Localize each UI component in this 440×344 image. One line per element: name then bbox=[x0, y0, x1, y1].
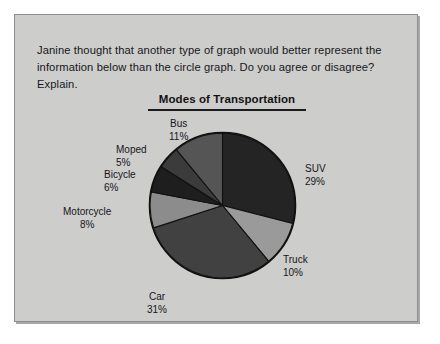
pie-label-bicycle: Bicycle 6% bbox=[104, 169, 136, 194]
pie-label-moped-value: 5% bbox=[116, 157, 147, 170]
pie-svg bbox=[148, 131, 297, 280]
pie-label-truck: Truck 10% bbox=[283, 254, 308, 279]
pie-label-moped: Moped 5% bbox=[116, 144, 147, 169]
pie-label-truck-value: 10% bbox=[283, 267, 308, 280]
pie-label-car: Car 31% bbox=[147, 291, 167, 316]
question-prompt: Janine thought that another type of grap… bbox=[37, 42, 389, 93]
pie-label-truck-name: Truck bbox=[283, 254, 308, 267]
chart-title-underline bbox=[148, 109, 306, 111]
pie-label-motorcycle-value: 8% bbox=[63, 219, 111, 232]
pie-label-suv: SUV 29% bbox=[305, 163, 326, 188]
pie-slices bbox=[150, 133, 295, 278]
pie-graphic bbox=[148, 131, 297, 280]
pie-label-motorcycle: Motorcycle 8% bbox=[63, 206, 111, 231]
pie-label-bus: Bus 11% bbox=[169, 118, 188, 143]
pie-label-bus-name: Bus bbox=[169, 118, 188, 131]
pie-label-motorcycle-name: Motorcycle bbox=[63, 206, 111, 219]
pie-label-suv-name: SUV bbox=[305, 163, 326, 176]
worksheet-panel: Janine thought that another type of grap… bbox=[14, 14, 418, 322]
pie-label-car-name: Car bbox=[147, 291, 167, 304]
pie-label-bicycle-name: Bicycle bbox=[104, 169, 136, 182]
pie-label-suv-value: 29% bbox=[305, 176, 326, 189]
chart-title: Modes of Transportation bbox=[152, 93, 302, 105]
pie-label-bicycle-value: 6% bbox=[104, 182, 136, 195]
pie-chart-figure: Modes of Transportation Bus 11% Moped 5%… bbox=[15, 93, 417, 321]
pie-label-bus-value: 11% bbox=[169, 131, 188, 144]
pie-label-moped-name: Moped bbox=[116, 144, 147, 157]
pie-label-car-value: 31% bbox=[147, 304, 167, 317]
